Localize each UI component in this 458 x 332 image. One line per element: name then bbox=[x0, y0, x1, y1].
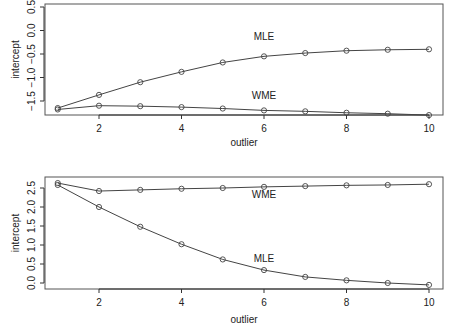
series-line bbox=[58, 106, 429, 115]
y-tick-label: 0.5 bbox=[26, 257, 37, 271]
y-axis: −1.5−1.0−0.50.00.5intercept bbox=[10, 0, 44, 111]
x-axis: 246810outlier bbox=[96, 289, 435, 325]
x-tick-label: 6 bbox=[261, 123, 267, 134]
x-tick-label: 2 bbox=[96, 297, 102, 308]
x-axis: 246810outlier bbox=[96, 115, 435, 148]
y-tick-label: −0.5 bbox=[26, 44, 37, 64]
series-mle bbox=[55, 47, 431, 111]
x-tick-label: 10 bbox=[423, 123, 435, 134]
series-annotation-mle: MLE bbox=[254, 253, 275, 264]
y-tick-label: 0.5 bbox=[26, 0, 37, 14]
series-line bbox=[58, 185, 429, 285]
x-tick-label: 4 bbox=[179, 297, 185, 308]
y-axis-label: intercept bbox=[10, 40, 21, 79]
bottom-panel: 246810outlier0.00.51.01.52.02.5intercept… bbox=[10, 177, 443, 325]
y-tick-label: 0.0 bbox=[26, 276, 37, 290]
y-tick-label: 1.5 bbox=[26, 219, 37, 233]
y-tick-label: −1.0 bbox=[26, 67, 37, 87]
series-annotation-wme: WME bbox=[252, 90, 277, 101]
x-tick-label: 10 bbox=[423, 297, 435, 308]
x-tick-label: 4 bbox=[179, 123, 185, 134]
series-annotation-wme: WME bbox=[252, 189, 277, 200]
x-axis-label: outlier bbox=[230, 137, 258, 148]
y-axis-label: intercept bbox=[10, 214, 21, 253]
chart-figure: 246810outlier−1.5−1.0−0.50.00.5intercept… bbox=[0, 0, 458, 332]
series-annotation-mle: MLE bbox=[254, 31, 275, 42]
series-line bbox=[58, 49, 429, 108]
x-tick-label: 2 bbox=[96, 123, 102, 134]
x-tick-label: 8 bbox=[344, 123, 350, 134]
top-panel: 246810outlier−1.5−1.0−0.50.00.5intercept… bbox=[10, 0, 443, 148]
y-tick-label: 2.0 bbox=[26, 200, 37, 214]
series-wme bbox=[55, 103, 431, 118]
y-axis: 0.00.51.01.52.02.5intercept bbox=[10, 181, 44, 290]
y-tick-label: 2.5 bbox=[26, 181, 37, 195]
plot-frame bbox=[45, 177, 443, 289]
y-tick-label: −1.5 bbox=[26, 91, 37, 111]
x-axis-label: outlier bbox=[230, 314, 258, 325]
y-tick-label: 0.0 bbox=[26, 23, 37, 37]
x-tick-label: 8 bbox=[344, 297, 350, 308]
series-wme bbox=[55, 180, 431, 193]
series-line bbox=[58, 183, 429, 191]
y-tick-label: 1.0 bbox=[26, 238, 37, 252]
x-tick-label: 6 bbox=[261, 297, 267, 308]
series-mle bbox=[55, 182, 431, 287]
